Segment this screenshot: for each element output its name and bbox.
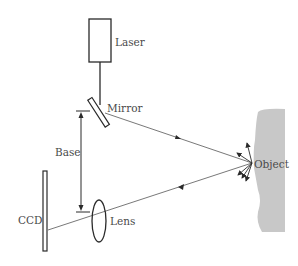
- scatter-arrows: [237, 143, 252, 181]
- ccd-label: CCD: [18, 214, 43, 226]
- object-label: Object: [254, 158, 290, 170]
- object-shape: [254, 109, 285, 232]
- arrow-icon: [175, 135, 181, 139]
- base-label: Base: [55, 146, 81, 158]
- triangulation-diagram: Laser Mirror Base CCD Lens Object: [0, 0, 298, 266]
- laser-label: Laser: [115, 36, 146, 48]
- reflected-beam: [48, 163, 252, 230]
- laser-source: [89, 19, 111, 62]
- lens-label: Lens: [110, 215, 135, 227]
- arrow-icon: [178, 184, 184, 190]
- lens: [92, 200, 106, 242]
- ccd-sensor: [43, 171, 47, 251]
- mirror-label: Mirror: [107, 102, 143, 114]
